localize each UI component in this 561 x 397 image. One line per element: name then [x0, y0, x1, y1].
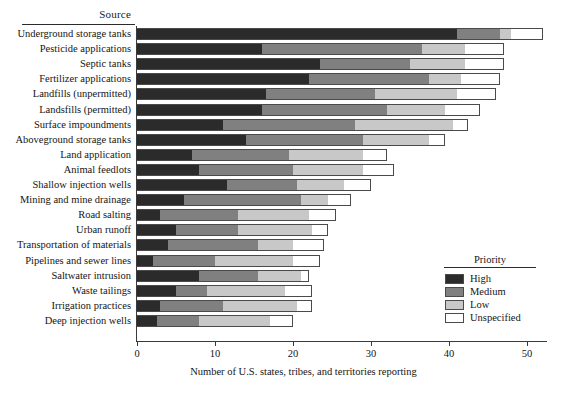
bar-segment-low	[238, 224, 312, 236]
bar-row: Mining and mine drainage	[137, 194, 351, 206]
bar-row: Aboveground storage tanks	[137, 134, 445, 146]
bar-segment-medium	[184, 194, 301, 206]
legend-item-low: Low	[445, 299, 543, 310]
legend-items: HighMediumLowUnspecified	[437, 273, 543, 323]
bar-segment-medium	[227, 179, 297, 191]
x-tick	[137, 341, 138, 346]
legend-item-high: High	[445, 273, 543, 284]
bar-segment-unspecified	[285, 285, 312, 297]
bar-segment-medium	[223, 119, 356, 131]
bar-row: Pesticide applications	[137, 43, 504, 55]
bar-segment-high	[137, 104, 262, 116]
category-label: Underground storage tanks	[0, 27, 131, 40]
bar-row: Deep injection wells	[137, 315, 293, 327]
x-tick	[293, 341, 294, 346]
bar-segment-medium	[160, 209, 238, 221]
bar-segment-unspecified	[461, 73, 500, 85]
bar-row: Urban runoff	[137, 224, 328, 236]
bar-segment-high	[137, 164, 199, 176]
bar-row: Waste tailings	[137, 285, 312, 297]
legend-swatch-high	[445, 274, 464, 284]
x-tick-label: 20	[273, 348, 313, 359]
category-label: Land application	[0, 148, 131, 161]
bar-segment-low	[258, 239, 293, 251]
legend-label: Low	[470, 299, 489, 310]
category-label: Road salting	[0, 208, 131, 221]
bar-segment-unspecified	[445, 104, 480, 116]
bar-segment-low	[301, 194, 328, 206]
bar-row: Land application	[137, 149, 387, 161]
bar-segment-high	[137, 255, 153, 267]
bar-segment-unspecified	[363, 149, 386, 161]
bar-segment-unspecified	[309, 209, 336, 221]
y-axis-title: Source	[0, 8, 131, 20]
category-label: Transportation of materials	[0, 238, 131, 251]
bar-segment-unspecified	[465, 43, 504, 55]
bar-segment-unspecified	[465, 58, 504, 70]
bar-segment-unspecified	[453, 119, 469, 131]
bar-segment-low	[375, 88, 457, 100]
bar-segment-low	[429, 73, 460, 85]
bar-segment-medium	[153, 255, 215, 267]
category-label: Pipelines and sewer lines	[0, 254, 131, 267]
bar-row: Landfills (unpermitted)	[137, 88, 496, 100]
category-label: Animal feedlots	[0, 163, 131, 176]
category-label: Landsfills (permitted)	[0, 103, 131, 116]
bar-row: Fertilizer applications	[137, 73, 500, 85]
bar-segment-unspecified	[312, 224, 328, 236]
bar-segment-medium	[320, 58, 410, 70]
bar-row: Underground storage tanks	[137, 28, 543, 40]
category-label: Saltwater intrusion	[0, 269, 131, 282]
bar-segment-high	[137, 239, 168, 251]
legend-title: Priority	[437, 254, 543, 267]
bar-segment-medium	[160, 300, 222, 312]
x-axis-title: Number of U.S. states, tribes, and terri…	[0, 366, 561, 377]
bar-segment-unspecified	[301, 270, 309, 282]
stacked-bar-chart: Source Underground storage tanksPesticid…	[0, 0, 561, 397]
bar-row: Animal feedlots	[137, 164, 394, 176]
bar-segment-medium	[199, 164, 293, 176]
bar-segment-medium	[157, 315, 200, 327]
bar-segment-medium	[309, 73, 430, 85]
x-tick-label: 0	[117, 348, 157, 359]
bar-segment-low	[500, 28, 512, 40]
bar-segment-high	[137, 270, 199, 282]
bar-segment-unspecified	[270, 315, 293, 327]
bar-segment-medium	[199, 270, 258, 282]
category-label: Mining and mine drainage	[0, 193, 131, 206]
bar-segment-high	[137, 194, 184, 206]
bar-segment-low	[223, 300, 297, 312]
bar-segment-unspecified	[363, 164, 394, 176]
bar-row: Septic tanks	[137, 58, 504, 70]
bar-segment-high	[137, 224, 176, 236]
bar-segment-high	[137, 58, 320, 70]
bar-segment-medium	[457, 28, 500, 40]
x-tick-label: 50	[507, 348, 547, 359]
category-label: Surface impoundments	[0, 118, 131, 131]
bar-segment-high	[137, 88, 266, 100]
x-axis-line	[136, 341, 547, 342]
bar-segment-high	[137, 315, 157, 327]
bar-segment-medium	[246, 134, 363, 146]
bar-segment-high	[137, 179, 227, 191]
bar-segment-unspecified	[429, 134, 445, 146]
bar-row: Surface impoundments	[137, 119, 468, 131]
bar-segment-high	[137, 149, 192, 161]
bar-row: Saltwater intrusion	[137, 270, 309, 282]
legend-label: Medium	[470, 286, 506, 297]
legend: Priority HighMediumLowUnspecified	[437, 254, 543, 325]
bar-segment-high	[137, 28, 457, 40]
bar-segment-low	[199, 315, 269, 327]
bar-segment-medium	[192, 149, 290, 161]
legend-label: High	[470, 273, 491, 284]
bar-segment-high	[137, 134, 246, 146]
category-label: Aboveground storage tanks	[0, 133, 131, 146]
category-label: Urban runoff	[0, 223, 131, 236]
bar-segment-low	[410, 58, 465, 70]
source-header-rule	[22, 24, 135, 25]
bar-row: Shallow injection wells	[137, 179, 371, 191]
bar-segment-medium	[176, 285, 207, 297]
bar-row: Road salting	[137, 209, 336, 221]
category-label: Landfills (unpermitted)	[0, 87, 131, 100]
bar-segment-low	[387, 104, 446, 116]
